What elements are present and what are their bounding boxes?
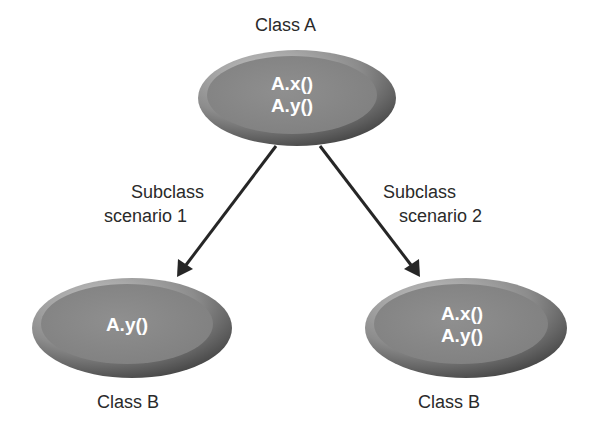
class-b-scenario-2-title: Class B (418, 391, 480, 413)
edge-label-scenario-1-line2: scenario 1 (104, 204, 187, 228)
method-label: A.x() (432, 303, 492, 325)
diagram-canvas (0, 0, 596, 427)
method-label: A.y() (432, 325, 492, 347)
method-label: A.y() (262, 95, 322, 117)
method-label: A.x() (262, 73, 322, 95)
class-b-scenario-2-methods: A.x() A.y() (432, 303, 492, 347)
edge-label-scenario-1-line1: Subclass (131, 180, 204, 204)
edge-label-scenario-2-line1: Subclass (383, 180, 456, 204)
class-b-scenario-1-title: Class B (97, 391, 159, 413)
class-a-methods: A.x() A.y() (262, 73, 322, 117)
arrow-scenario-1 (177, 146, 276, 277)
class-b-scenario-1-methods: A.y() (97, 314, 157, 336)
method-label: A.y() (97, 314, 157, 336)
edge-label-scenario-2-line2: scenario 2 (399, 204, 482, 228)
class-a-title: Class A (255, 14, 316, 36)
